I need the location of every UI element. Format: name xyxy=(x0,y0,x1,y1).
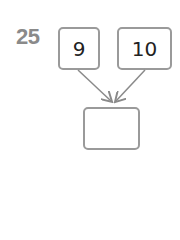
arrow-right-icon xyxy=(116,70,145,101)
arrow-left-icon xyxy=(78,70,111,101)
answer-box[interactable] xyxy=(83,107,140,150)
